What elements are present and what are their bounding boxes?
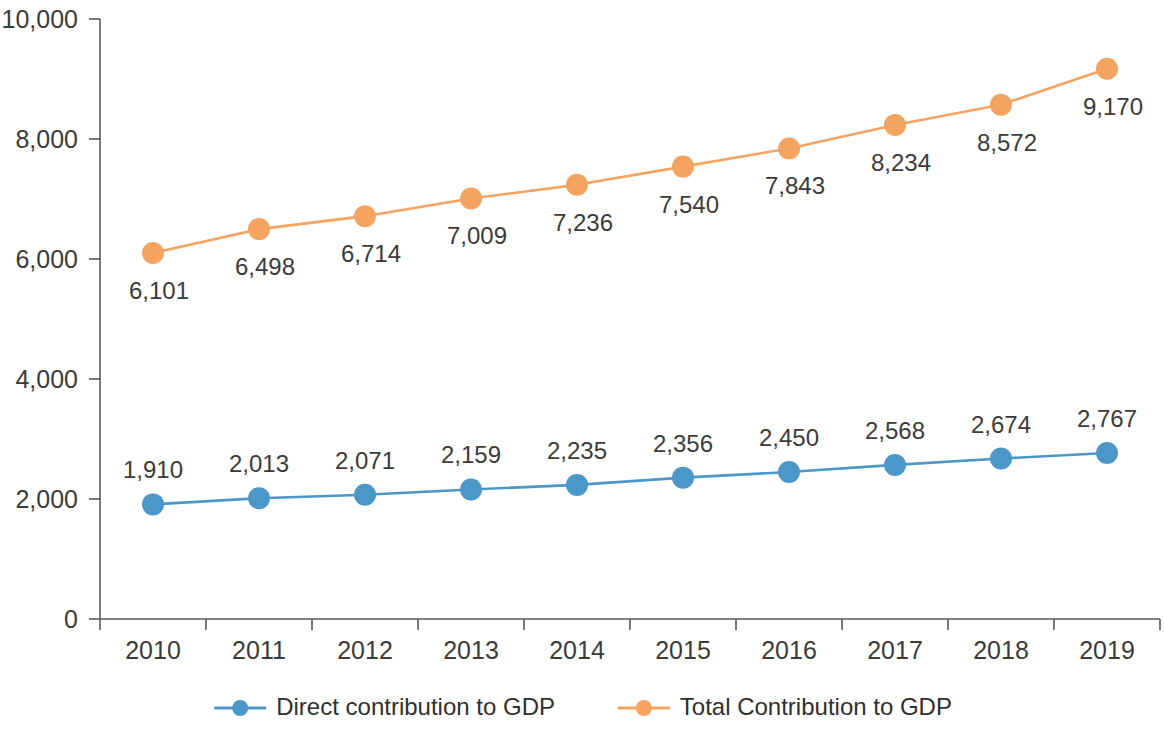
y-axis-tick-label: 0 [64,605,78,633]
data-point-label: 7,009 [447,222,507,249]
chart-background [0,0,1164,732]
data-point-marker[interactable] [460,187,482,209]
data-point-label: 7,540 [659,191,719,218]
data-point-marker[interactable] [778,137,800,159]
data-point-label: 9,170 [1083,93,1143,120]
y-axis-tick-label: 8,000 [15,125,78,153]
data-point-label: 2,235 [547,437,607,464]
x-axis-tick-label: 2014 [549,636,605,664]
data-point-marker[interactable] [990,448,1012,470]
line-chart: 02,0004,0006,0008,00010,000 201020112012… [0,0,1164,732]
x-axis-tick-label: 2012 [337,636,393,664]
data-point-marker[interactable] [884,454,906,476]
data-point-marker[interactable] [990,94,1012,116]
data-point-label: 6,498 [235,253,295,280]
data-point-marker[interactable] [248,218,270,240]
data-point-label: 2,013 [229,450,289,477]
x-axis-tick-label: 2019 [1079,636,1135,664]
data-point-label: 6,714 [341,240,401,267]
x-axis-tick-label: 2017 [867,636,923,664]
data-point-label: 1,910 [123,456,183,483]
data-point-marker[interactable] [1096,442,1118,464]
data-point-label: 2,159 [441,441,501,468]
data-point-label: 2,450 [759,424,819,451]
y-axis-tick-label: 10,000 [2,5,78,33]
legend-item-label: Total Contribution to GDP [680,693,952,720]
data-point-marker[interactable] [778,461,800,483]
x-axis-tick-label: 2011 [232,636,286,664]
y-axis-tick-label: 6,000 [15,245,78,273]
y-axis-tick-label: 4,000 [15,365,78,393]
x-axis-tick-label: 2018 [973,636,1029,664]
data-point-label: 2,356 [653,430,713,457]
data-point-label: 6,101 [129,277,189,304]
data-point-marker[interactable] [1096,58,1118,80]
data-point-marker[interactable] [354,484,376,506]
x-axis-tick-label: 2013 [443,636,499,664]
data-point-marker[interactable] [248,487,270,509]
legend-item-label: Direct contribution to GDP [276,693,555,720]
data-point-marker[interactable] [142,493,164,515]
x-axis-tick-label: 2010 [125,636,181,664]
x-axis-tick-label: 2016 [761,636,817,664]
data-point-label: 7,236 [553,209,613,236]
data-point-label: 8,572 [977,129,1037,156]
data-point-marker[interactable] [884,114,906,136]
data-point-marker[interactable] [354,205,376,227]
data-point-marker[interactable] [566,174,588,196]
data-point-marker[interactable] [672,156,694,178]
data-point-label: 2,568 [865,417,925,444]
data-point-marker[interactable] [566,474,588,496]
data-point-label: 2,767 [1077,405,1137,432]
data-point-label: 2,071 [335,447,395,474]
x-axis-tick-label: 2015 [655,636,711,664]
data-point-marker[interactable] [672,467,694,489]
data-point-marker[interactable] [460,478,482,500]
legend-swatch-marker [232,700,248,716]
chart-container: 02,0004,0006,0008,00010,000 201020112012… [0,0,1164,732]
data-point-label: 8,234 [871,149,931,176]
y-axis-tick-label: 2,000 [15,485,78,513]
data-point-label: 7,843 [765,172,825,199]
legend-swatch-marker [636,700,652,716]
data-point-label: 2,674 [971,411,1031,438]
data-point-marker[interactable] [142,242,164,264]
